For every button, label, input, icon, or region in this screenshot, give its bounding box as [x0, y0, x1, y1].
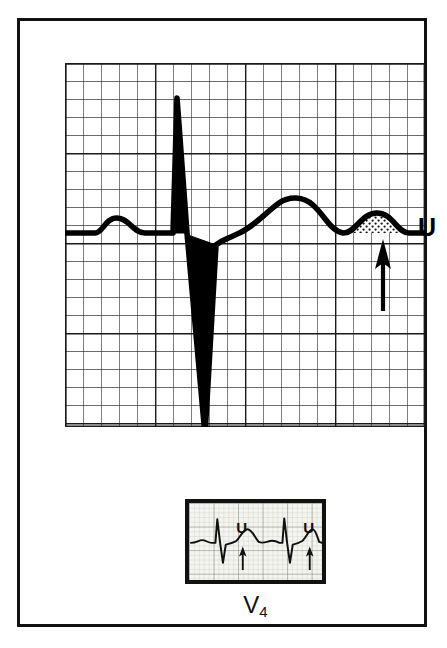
figure-border: U U: [17, 18, 427, 627]
inset-u-label-1: U: [236, 520, 247, 536]
u-wave-arrow-icon: [375, 239, 391, 311]
u-wave-label: U: [418, 215, 436, 240]
inset-rhythm-strip: U U: [185, 499, 326, 584]
ecg-figure: U U: [0, 0, 447, 648]
ecg-trace-path: [65, 98, 425, 427]
lead-caption-number: 4: [259, 603, 267, 620]
main-ecg-panel: U: [65, 63, 425, 427]
lead-caption: V4: [185, 593, 326, 617]
lead-caption-letter: V: [243, 591, 259, 618]
inset-ecg-svg: U U: [189, 503, 322, 580]
ecg-waveform: [65, 63, 425, 427]
inset-u-label-2: U: [303, 520, 314, 536]
